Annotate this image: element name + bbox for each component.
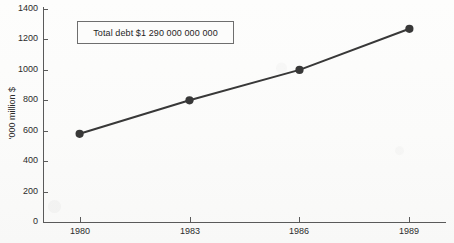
total-debt-callout-label: Total debt $1 290 000 000 000 <box>93 28 218 38</box>
series-data-point <box>295 66 303 74</box>
total-debt-callout-box: Total debt $1 290 000 000 000 <box>77 21 234 44</box>
series-data-point <box>185 96 193 104</box>
series-data-point <box>405 25 413 33</box>
series-data-point <box>76 130 84 138</box>
chart-screenshot: '000 million $ 0200400600800100012001400… <box>0 0 454 243</box>
series-line-total-debt <box>80 29 410 134</box>
